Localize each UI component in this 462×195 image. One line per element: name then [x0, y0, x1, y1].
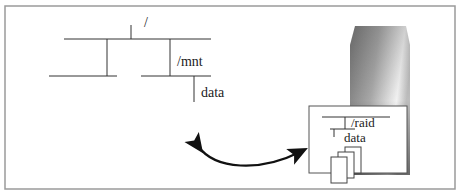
raid-label: /raid: [351, 115, 375, 130]
root-label: /: [144, 15, 148, 30]
remote-filesystem-panel: /raid data: [309, 106, 407, 183]
remote-data-label: data: [344, 130, 366, 145]
nfs-mount-diagram: / /mnt data /raid data: [0, 0, 462, 195]
mnt-label: /mnt: [177, 54, 203, 69]
local-data-label: data: [201, 85, 225, 100]
